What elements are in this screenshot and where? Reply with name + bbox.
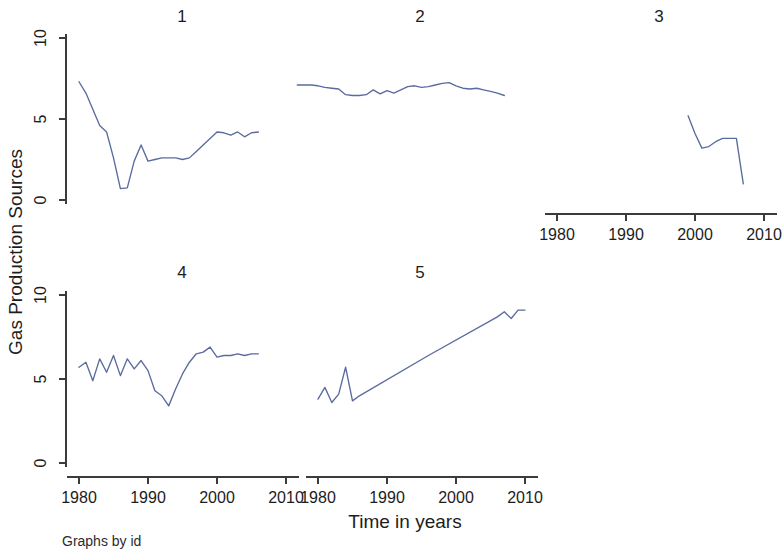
panel-4-xtick-label-1980: 1980 xyxy=(61,489,97,506)
panel-5-xtick-label-2010: 2010 xyxy=(507,489,543,506)
panel-1-ytick-label-0: 0 xyxy=(32,195,49,204)
panel-1-data-line xyxy=(79,82,258,189)
panel-4-data-line xyxy=(79,347,258,406)
y-axis-title: Gas Production Sources xyxy=(5,149,26,355)
panel-3-title: 3 xyxy=(654,7,663,26)
panel-5-xtick-label-2000: 2000 xyxy=(438,489,474,506)
panel-4-xtick-label-2010: 2010 xyxy=(268,489,304,506)
panel-3-xtick-label-2000: 2000 xyxy=(677,226,713,243)
figure-canvas: Gas Production Sources Time in years Gra… xyxy=(0,0,782,556)
panel-1: 1 10 5 0 xyxy=(32,7,258,204)
panel-5-data-line xyxy=(318,310,525,402)
small-multiples-chart: Gas Production Sources Time in years Gra… xyxy=(0,0,782,556)
panel-5-xtick-label-1990: 1990 xyxy=(369,489,405,506)
panel-3: 3 1980 1990 2000 2010 xyxy=(539,7,782,243)
graphs-by-note: Graphs by id xyxy=(62,533,141,549)
panel-4-ytick-label-5: 5 xyxy=(32,374,49,383)
panel-3-xtick-label-1990: 1990 xyxy=(608,226,644,243)
panel-2-data-line xyxy=(297,83,504,96)
panel-3-xtick-label-1980: 1980 xyxy=(539,226,575,243)
panel-4-title: 4 xyxy=(177,263,186,282)
panel-1-ytick-label-10: 10 xyxy=(32,29,49,47)
panel-5: 5 1980 1990 2000 2010 xyxy=(300,263,543,506)
panel-1-title: 1 xyxy=(177,7,186,26)
panel-3-xtick-label-2010: 2010 xyxy=(746,226,782,243)
x-axis-title: Time in years xyxy=(348,511,461,532)
panel-2-title: 2 xyxy=(415,7,424,26)
panel-2: 2 xyxy=(297,7,504,96)
panel-5-title: 5 xyxy=(415,263,424,282)
panel-5-xtick-label-1980: 1980 xyxy=(300,489,336,506)
panel-3-data-line xyxy=(688,116,743,184)
panel-4: 4 10 5 0 1980 1990 2000 2010 xyxy=(32,263,304,506)
panel-1-ytick-label-5: 5 xyxy=(32,114,49,123)
panel-4-xtick-label-2000: 2000 xyxy=(199,489,235,506)
panel-4-ytick-label-0: 0 xyxy=(32,458,49,467)
panel-4-ytick-label-10: 10 xyxy=(32,286,49,304)
panel-4-xtick-label-1990: 1990 xyxy=(130,489,166,506)
